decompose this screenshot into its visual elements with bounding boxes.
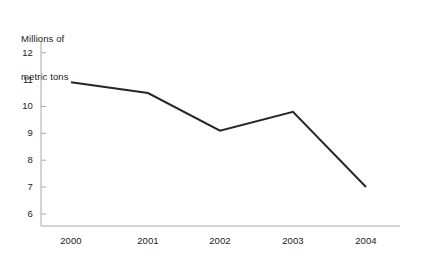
x-axis-tick-label: 2003 — [270, 235, 316, 246]
y-axis-tick-label: 10 — [11, 100, 33, 111]
x-axis-tick-label: 2000 — [48, 235, 94, 246]
y-axis-ticks — [41, 53, 46, 214]
y-axis-tick-label: 6 — [11, 208, 33, 219]
line-chart: Millions of metric tons 1211109876 20002… — [0, 0, 423, 263]
x-axis-tick-label: 2001 — [125, 235, 171, 246]
y-axis-tick-label: 12 — [11, 47, 33, 58]
y-axis-tick-label: 7 — [11, 181, 33, 192]
axis-lines — [41, 42, 400, 226]
x-axis-tick-label: 2002 — [197, 235, 243, 246]
x-axis-tick-label: 2004 — [343, 235, 389, 246]
data-series-line — [71, 82, 366, 187]
y-axis-tick-label: 9 — [11, 127, 33, 138]
y-axis-tick-label: 8 — [11, 154, 33, 165]
y-axis-tick-label: 11 — [11, 74, 33, 85]
chart-plot-area — [0, 0, 423, 263]
